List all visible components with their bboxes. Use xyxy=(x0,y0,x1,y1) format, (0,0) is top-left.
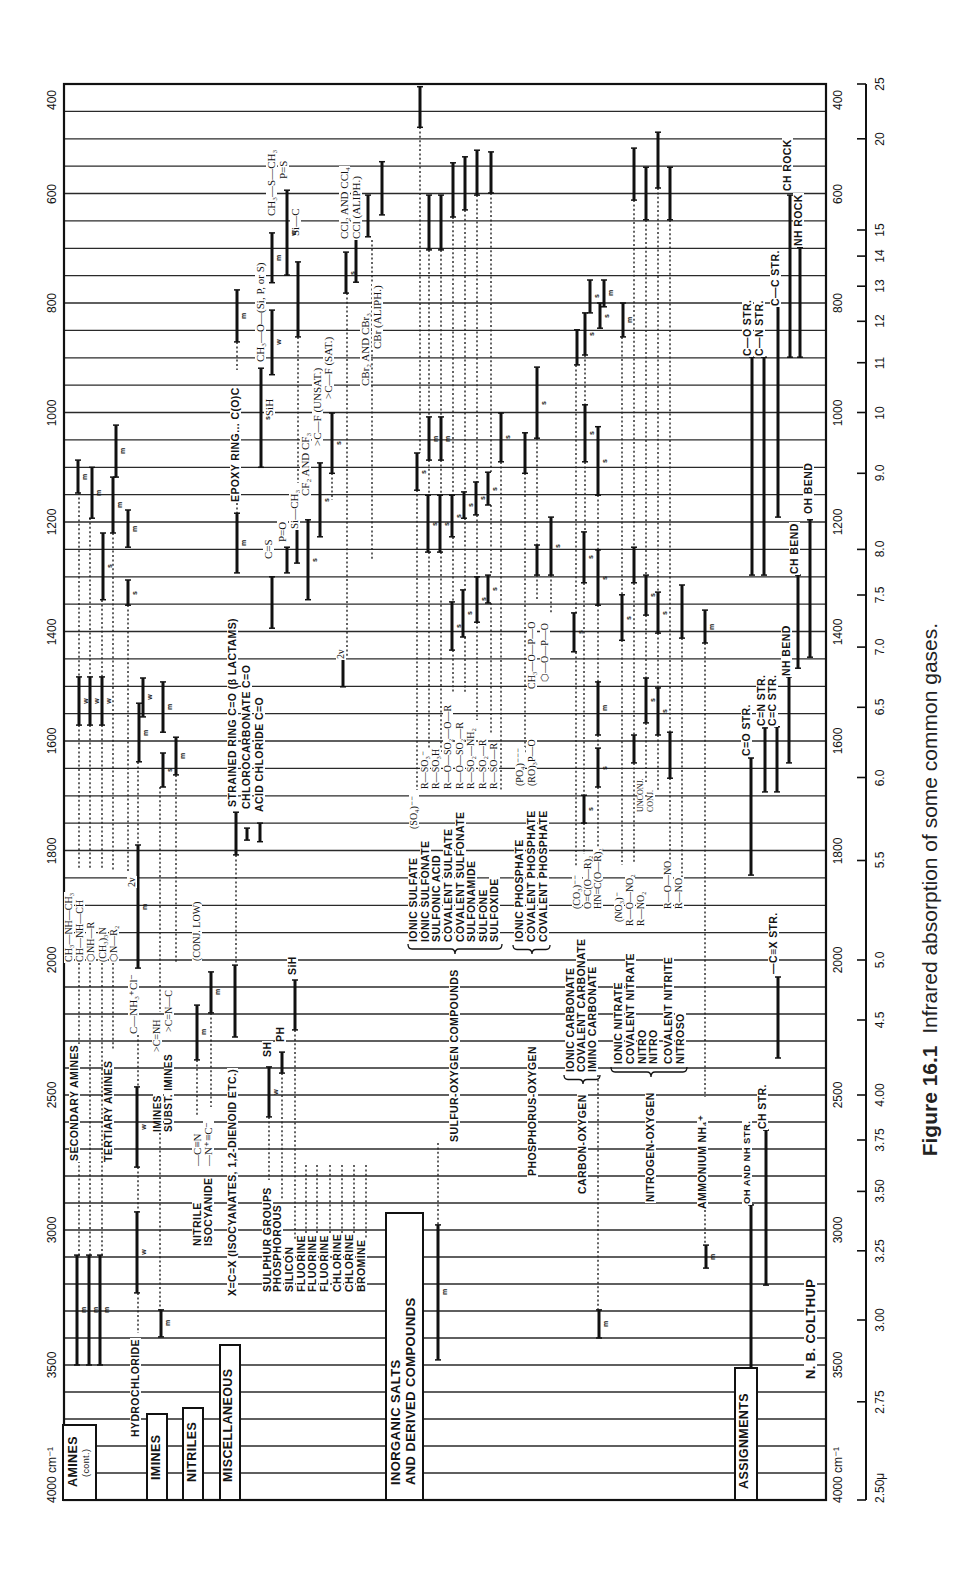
intensity-mark-s: s xyxy=(504,435,511,439)
label-and-derived-compounds: AND DERIVED COMPOUNDS xyxy=(404,1296,417,1486)
label-r-o-so-r: R—O—SO₂—R xyxy=(455,721,465,790)
label-c-n-str: C=N STR. xyxy=(756,674,767,727)
label-nitro: NITRO xyxy=(648,1028,659,1065)
intensity-mark-m: m xyxy=(444,435,451,441)
right-wavenumber-tick-label: 3000 xyxy=(832,1217,844,1244)
intensity-mark-s: s xyxy=(480,598,487,602)
label-fluorine: FLUORINE xyxy=(296,1234,307,1293)
intensity-mark-s: s xyxy=(311,558,318,562)
label-ro-p-o: (RO)₃P—O xyxy=(527,738,537,787)
right-wavenumber-tick-label: 600 xyxy=(832,183,844,203)
label-amines: AMINES xyxy=(67,1435,80,1488)
label-n-c: —N⁺≡C⁻ xyxy=(203,1121,214,1167)
label-nitro: NITRO xyxy=(637,1028,648,1065)
label-ch-o-si-p-or-s: CH₃—O—(Si, P, or S) xyxy=(255,262,266,364)
label-c-o-str: C—O STR. xyxy=(742,299,753,357)
label-nitriles: NITRILES xyxy=(186,1421,199,1483)
intensity-mark-m: m xyxy=(432,435,439,441)
left-wavenumber-tick-label: 600 xyxy=(46,183,58,203)
intensity-mark-m: m xyxy=(81,473,88,479)
label-c-f-sat: >C—F (SAT.) xyxy=(323,336,334,400)
label-miscellaneous: MISCELLANEOUS xyxy=(222,1367,235,1483)
intensity-mark-s: s xyxy=(467,503,474,507)
wavelength-tick-label: 10 xyxy=(874,406,886,419)
label-sulfonamide: SULFONAMIDE xyxy=(466,860,477,943)
intensity-mark-s: s xyxy=(661,611,668,615)
label-c-n-str: C—N STR. xyxy=(754,299,765,357)
intensity-mark-s: s xyxy=(577,630,584,634)
intensity-mark-m: m xyxy=(275,255,282,261)
intensity-mark-w: w xyxy=(275,340,282,345)
intensity-mark-m: m xyxy=(709,1253,716,1259)
label-phosphorous: PHOSPHOROUS xyxy=(272,1204,283,1293)
label-2: 2ν xyxy=(127,876,137,888)
label-tertiary-amines: TERTIARY AMINES xyxy=(103,1060,114,1163)
intensity-mark-m: m xyxy=(103,1307,110,1313)
figure-number: Figure 16.1 xyxy=(918,1045,941,1156)
label-bromine: BROMINE xyxy=(356,1239,367,1293)
intensity-mark-s: s xyxy=(587,555,594,559)
label-o-p-o: ⬡—O—P—O xyxy=(540,622,550,683)
label-ionic-sulfate: IONIC SULFATE xyxy=(408,857,419,943)
label-covalent-nitrite: COVALENT NITRITE xyxy=(663,956,674,1065)
intensity-mark-s: s xyxy=(625,616,632,620)
label-p-o: P=O xyxy=(277,521,288,543)
wavelength-tick-label: 11 xyxy=(874,356,886,368)
label-assignments: ASSIGNMENTS xyxy=(738,1392,751,1490)
label-sulfur-oxygen-compounds: SULFUR-OXYGEN COMPOUNDS xyxy=(449,968,460,1143)
label-covalent-carbonate: COVALENT CARBONATE xyxy=(576,938,587,1073)
wavelength-tick-label: 3.25 xyxy=(874,1239,886,1262)
label-c-o-str: C=O STR. xyxy=(741,703,752,757)
label-nh-bend: NH BEND xyxy=(781,624,792,677)
label-cont: (cont.) xyxy=(82,1448,91,1478)
intensity-mark-w: w xyxy=(146,695,153,700)
intensity-mark-s: s xyxy=(491,487,498,491)
label-n-r: ⬡N—R₂ xyxy=(109,925,119,963)
label-r-so-r: R—SO—R xyxy=(489,742,499,790)
intensity-mark-s: s xyxy=(601,459,608,463)
label-c-c-str: C—C STR. xyxy=(770,249,781,307)
right-wavenumber-tick-label: 2000 xyxy=(832,947,844,974)
wavelength-tick-label: 7.5 xyxy=(874,587,886,604)
wavelength-tick-label: 15 xyxy=(874,223,886,236)
intensity-mark-s: s xyxy=(661,709,668,713)
label-nitroso: NITROSO xyxy=(675,1012,686,1065)
label-subst-imines: SUBST. IMINES xyxy=(164,1053,174,1133)
intensity-mark-s: s xyxy=(588,332,595,336)
label-chlorine: CHLORINE xyxy=(344,1233,355,1293)
label-ch-o-p-o: CH₃—O—P—O xyxy=(527,621,537,690)
intensity-mark-m: m xyxy=(131,525,138,531)
sulfur-oxygen-brace xyxy=(408,944,502,954)
intensity-mark-s: s xyxy=(593,294,600,298)
label-po: (PO₄)⁻⁻⁻ xyxy=(515,747,525,787)
intensity-mark-m: m xyxy=(200,1029,207,1035)
label-silicon: SILICON xyxy=(284,1246,295,1293)
intensity-mark-m: m xyxy=(95,490,102,496)
right-wavenumber-tick-label: 1200 xyxy=(832,509,844,536)
intensity-mark-s: s xyxy=(649,699,656,703)
label-oh-bend: OH BEND xyxy=(803,462,814,515)
wavelength-tick-label: 3.00 xyxy=(874,1308,886,1331)
wavelength-tick-label: 5.5 xyxy=(874,852,886,869)
label-carbon-oxygen: CARBON-OXYGEN xyxy=(577,1093,588,1195)
intensity-mark-s: s xyxy=(491,587,498,591)
label-covalent-phosphate: COVALENT PHOSPHATE xyxy=(526,809,537,943)
intensity-mark-s: s xyxy=(554,544,561,548)
intensity-mark-s: s xyxy=(431,522,438,526)
intensity-mark-s: s xyxy=(335,441,342,445)
label-isocyanide: ISOCYANIDE xyxy=(203,1177,214,1247)
label-phosphorus-oxygen: PHOSPHORUS-OXYGEN xyxy=(527,1045,538,1177)
intensity-mark-s: s xyxy=(587,807,594,811)
intensity-mark-s: s xyxy=(603,314,610,318)
figure-caption-text: Infrared absorption of some common gases… xyxy=(918,623,941,1046)
label-c-c-str: C=C STR. xyxy=(767,674,778,727)
label-c-nh: >C=NH xyxy=(152,1019,162,1053)
intensity-mark-m: m xyxy=(80,1307,87,1313)
label-imino-carbonate: IMINO CARBONATE xyxy=(587,965,598,1073)
label-covalent-phosphate: COVALENT PHOSPHATE xyxy=(538,809,549,943)
intensity-mark-s: s xyxy=(455,514,462,518)
intensity-mark-m: m xyxy=(626,317,633,323)
intensity-mark-m: m xyxy=(708,623,715,629)
label-sulfoxide: SULFOXIDE xyxy=(489,877,500,943)
intensity-mark-s: s xyxy=(106,564,113,568)
